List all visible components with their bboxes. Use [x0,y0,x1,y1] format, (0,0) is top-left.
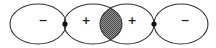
nucleus-left-dot [62,21,67,26]
lobe-2-sign: + [81,14,90,27]
lobe-1-sign: − [38,14,47,27]
lobe-3-sign: + [127,14,136,27]
lobe-4-sign: − [180,14,189,27]
nucleus-right-dot [151,21,156,26]
orbital-overlap-diagram: −++− [0,0,216,48]
